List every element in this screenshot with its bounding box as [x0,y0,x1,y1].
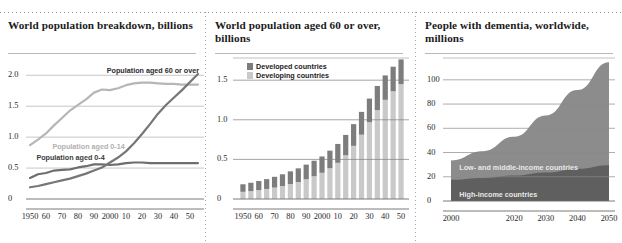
series-annotation: Population aged 0-4 [36,153,104,162]
infographic-page: World population breakdown, billions 00.… [0,0,622,243]
x-axis-tick-label: 80 [286,212,294,221]
bar-segment [240,184,245,192]
y-axis-tick-label: 40 [427,148,435,157]
legend-label: Developed countries [256,62,327,71]
stacked-area-chart-dementia: 02040608010020002020203020402050Low- and… [417,0,622,243]
x-axis-tick-label: 2000 [102,212,119,221]
line-chart-population-breakdown: 00.51.01.52.019506070809020001020304050P… [0,0,205,243]
vertical-dotted-divider-2 [415,12,416,243]
x-axis-tick-label: 90 [302,212,310,221]
y-axis-tick-label: 0.5 [8,163,18,172]
bar-segment [304,165,309,180]
bar-segment [248,191,253,199]
y-axis-tick-label: 60 [427,123,435,132]
bar-segment [398,84,403,199]
chart-panel-dementia: People with dementia, worldwide, million… [417,0,622,243]
bar-segment [280,186,285,199]
bar-segment [383,75,388,99]
bar-segment [248,183,253,191]
legend-item: Developed countries [247,62,327,71]
x-axis-tick-label: 80 [74,212,82,221]
x-axis-tick-label: 40 [170,212,178,221]
bar-segment [288,184,293,199]
bar-segment [375,110,380,199]
series-annotation: Population aged 60 or over [107,66,199,75]
x-axis-tick-label: 70 [270,212,278,221]
bar-segment [327,168,332,199]
x-axis-tick-label: 2000 [314,212,331,221]
bar-segment [311,161,316,177]
x-axis-tick-label: 10 [122,212,130,221]
series-annotation: High-income countries [459,190,537,199]
line-chart-svg [0,0,205,243]
bar-segment [280,174,285,186]
y-axis-tick-label: 100 [427,75,440,84]
x-axis-tick-label: 2000 [443,214,460,223]
bar-segment [296,168,301,182]
bar-segment [375,86,380,110]
vertical-dotted-divider-1 [205,12,206,243]
y-axis-tick-label: 0 [217,194,221,203]
area-chart-svg [417,0,622,243]
bar-segment [240,192,245,199]
legend-item: Developing countries [247,71,329,80]
bar-segment [311,176,316,199]
bar-segment [359,112,364,135]
series-annotation: Low- and middle-income countries [459,163,578,172]
x-axis-tick-label: 60 [42,212,50,221]
x-axis-tick-label: 30 [154,212,162,221]
bar-segment [335,163,340,199]
y-axis-tick-label: 0 [427,196,431,205]
bar-segment [319,156,324,172]
x-axis-tick-label: 50 [397,212,405,221]
line-series-population-aged-0-4 [30,163,198,178]
y-axis-tick-label: 1.0 [8,132,18,141]
bar-segment [296,182,301,199]
x-axis-tick-label: 1950 [235,212,252,221]
x-axis-tick-label: 90 [90,212,98,221]
stacked-bar-chart-aged-60-over: 00.51.01.519506070809020001020304050Deve… [207,0,412,243]
series-annotation: Population aged 0-14 [52,142,124,151]
x-axis-tick-label: 70 [58,212,66,221]
bar-segment [256,181,261,190]
y-axis-tick-label: 80 [427,99,435,108]
bar-segment [304,179,309,199]
legend-swatch-icon [247,72,253,79]
bar-segment [272,177,277,188]
bar-segment [367,99,372,123]
y-axis-tick-label: 1.0 [217,115,227,124]
x-axis-tick-label: 2050 [601,214,618,223]
bar-segment [359,135,364,199]
x-axis-tick-label: 50 [186,212,194,221]
line-series-population-aged-0-14 [30,83,198,145]
bar-chart-svg [207,0,412,243]
bar-segment [264,179,269,189]
bar-segment [288,171,293,184]
bar-segment [272,188,277,199]
x-axis-tick-label: 30 [365,212,373,221]
legend-swatch-icon [247,63,253,70]
y-axis-tick-label: 2.0 [8,70,18,79]
x-axis-tick-label: 1950 [22,212,39,221]
legend-label: Developing countries [256,71,329,80]
x-axis-tick-label: 10 [334,212,342,221]
bar-segment [343,135,348,155]
bar-segment [256,190,261,199]
bar-segment [335,144,340,163]
bar-segment [383,100,388,199]
chart-panel-aged-60-over: World population aged 60 or over, billio… [207,0,412,243]
y-axis-tick-label: 1.5 [217,75,227,84]
x-axis-tick-label: 60 [255,212,263,221]
y-axis-tick-label: 0 [8,194,12,203]
y-axis-tick-label: 0.5 [217,154,227,163]
y-axis-tick-label: 20 [427,172,435,181]
x-axis-tick-label: 40 [381,212,389,221]
x-axis-tick-label: 20 [138,212,146,221]
x-axis-tick-label: 2040 [569,214,586,223]
chart-panel-population-breakdown: World population breakdown, billions 00.… [0,0,205,243]
bar-segment [391,91,396,199]
bar-segment [264,189,269,199]
bar-segment [367,122,372,199]
bar-segment [391,67,396,92]
bar-segment [351,124,356,146]
